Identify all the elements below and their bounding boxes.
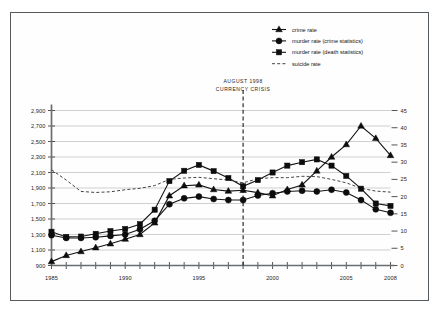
square-marker — [211, 169, 216, 174]
data-markers-group — [48, 122, 394, 263]
series-line-crime-rate — [52, 126, 391, 262]
triangle-marker — [276, 26, 283, 32]
right-axis-tick-label: 45 — [401, 108, 407, 114]
legend-label: crime rate — [292, 27, 317, 33]
annotation-line-1: AUGUST 1998 — [223, 78, 262, 84]
right-axis-tick-label: 15 — [401, 211, 407, 217]
left-axis-tick-label: 1,100 — [31, 247, 46, 253]
square-marker — [64, 234, 69, 239]
square-marker — [358, 186, 363, 191]
circle-marker — [196, 194, 202, 200]
chart-canvas: 9001,1001,3001,5001,7001,9002,1002,3002,… — [0, 0, 442, 314]
circle-marker — [211, 196, 217, 202]
square-marker — [373, 201, 378, 206]
circle-marker — [388, 210, 394, 216]
crisis-annotation: AUGUST 1998 CURRENCY CRISIS — [216, 78, 271, 92]
circle-marker — [181, 195, 187, 201]
square-marker — [108, 228, 113, 233]
square-marker — [152, 207, 157, 212]
circle-marker — [314, 188, 320, 194]
circle-marker — [284, 188, 290, 194]
right-axis-tick-label: 0 — [401, 263, 404, 269]
right-axis-tick-label: 10 — [401, 228, 407, 234]
circle-marker — [270, 190, 276, 196]
x-axis-tick-label: 2000 — [266, 275, 279, 281]
legend-symbol-triangle — [272, 26, 286, 32]
gridlines — [52, 111, 391, 266]
square-marker — [137, 222, 142, 227]
legend-label: suicide rate — [292, 61, 321, 67]
square-marker — [344, 173, 349, 178]
right-axis-tick-label: 30 — [401, 159, 407, 165]
square-marker — [285, 163, 290, 168]
left-axis-tick-label: 1,300 — [31, 232, 46, 238]
left-axis-tick-label: 2,900 — [31, 108, 46, 114]
x-axis-tick-label: 1990 — [119, 275, 132, 281]
circle-marker — [137, 226, 143, 232]
circle-marker — [329, 187, 335, 193]
left-axis-tick-label: 1,500 — [31, 216, 46, 222]
square-marker — [226, 175, 231, 180]
square-marker — [167, 179, 172, 184]
right-axis-tick-label: 20 — [401, 194, 407, 200]
chart-figure: 9001,1001,3001,5001,7001,9002,1002,3002,… — [0, 0, 442, 314]
triangle-marker — [181, 182, 188, 188]
right-axis-tick-label: 25 — [401, 176, 407, 182]
left-axis-tick-label: 2,300 — [31, 154, 46, 160]
square-marker — [299, 160, 304, 165]
series-line-murder-rate-crime-statistics — [52, 190, 391, 238]
circle-marker — [358, 197, 364, 203]
x-axis-tick-label: 1985 — [45, 275, 58, 281]
circle-marker — [373, 206, 379, 212]
circle-marker — [122, 232, 128, 238]
x-axis-tick-label: 2005 — [340, 275, 353, 281]
triangle-marker — [358, 122, 365, 128]
right-axis-tick-label: 35 — [401, 142, 407, 148]
x-axis-tick-label: 2008 — [384, 275, 397, 281]
right-axis-tick-label: 40 — [401, 125, 407, 131]
square-marker — [329, 163, 334, 168]
x-axis-tick-label: 1995 — [192, 275, 205, 281]
series-line-suicide-rate — [52, 170, 391, 193]
square-marker — [314, 157, 319, 162]
data-series-group — [52, 126, 391, 262]
left-axis-tick-label: 2,700 — [31, 123, 46, 129]
x-axis-labels: 198519901995200020052008 — [45, 275, 397, 281]
square-marker — [276, 50, 281, 55]
left-axis-tick-label: 2,100 — [31, 170, 46, 176]
circle-marker — [240, 197, 246, 203]
square-marker — [123, 226, 128, 231]
legend-label: murder rate (death statistics) — [292, 49, 363, 55]
right-axis-tick-label: 5 — [401, 245, 404, 251]
legend-symbol-circle — [272, 38, 286, 44]
square-marker — [49, 229, 54, 234]
circle-marker — [276, 38, 282, 44]
square-marker — [241, 184, 246, 189]
left-axis-labels: 9001,1001,3001,5001,7001,9002,1002,3002,… — [31, 108, 46, 269]
square-marker — [255, 177, 260, 182]
circle-marker — [299, 188, 305, 194]
left-axis-tick-label: 900 — [36, 263, 46, 269]
left-axis-tick-label: 1,700 — [31, 201, 46, 207]
triangle-marker — [328, 153, 335, 159]
circle-marker — [343, 189, 349, 195]
square-marker — [388, 203, 393, 208]
square-marker — [270, 170, 275, 175]
triangle-marker — [196, 181, 203, 187]
legend-symbol-square — [272, 50, 286, 55]
annotation-line-2: CURRENCY CRISIS — [216, 86, 271, 92]
circle-marker — [225, 197, 231, 203]
triangle-marker — [166, 192, 173, 198]
right-axis-ticks — [392, 111, 398, 266]
square-marker — [196, 162, 201, 167]
series-line-murder-rate-death-statistics — [52, 159, 391, 237]
square-marker — [78, 234, 83, 239]
triangle-marker — [372, 135, 379, 141]
legend-label: murder rate (crime statistics) — [292, 38, 363, 44]
right-axis-labels: 051015202530354045 — [401, 108, 407, 269]
square-marker — [182, 168, 187, 173]
left-axis-tick-label: 2,500 — [31, 139, 46, 145]
circle-marker — [166, 201, 172, 207]
chart-legend: crime ratemurder rate (crime statistics)… — [272, 26, 363, 67]
circle-marker — [255, 193, 261, 199]
